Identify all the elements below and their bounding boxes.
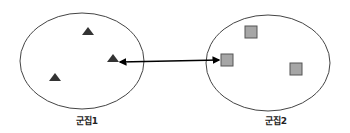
cluster-1-point — [107, 54, 119, 62]
cluster-1: 군집1 — [20, 13, 144, 126]
cluster-2-point — [245, 26, 257, 38]
cluster-2-point — [221, 54, 233, 66]
cluster-2-point — [290, 63, 302, 75]
cluster-2: 군집2 — [206, 15, 330, 126]
cluster-1-point — [49, 73, 61, 81]
cluster-1-point — [82, 27, 94, 35]
cluster-diagram: 군집1 군집2 — [0, 0, 350, 133]
cluster-2-label: 군집2 — [265, 115, 287, 126]
distance-arrow — [120, 60, 219, 62]
cluster-1-label: 군집1 — [76, 115, 98, 126]
cluster-1-boundary — [20, 13, 144, 109]
